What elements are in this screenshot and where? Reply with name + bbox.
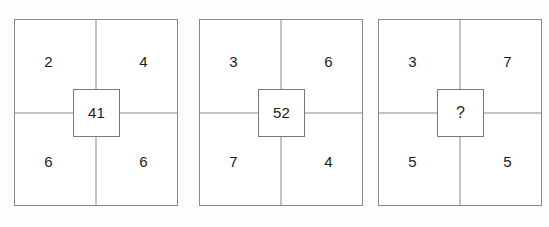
puzzle-panel-1: 2 4 6 6 41 bbox=[14, 19, 178, 206]
panel-1-center-value: 41 bbox=[73, 89, 120, 137]
panel-2-center-value: 52 bbox=[258, 89, 305, 137]
panel-3-center-unknown-value: ? bbox=[437, 89, 484, 137]
puzzle-panel-2: 3 6 7 4 52 bbox=[199, 19, 363, 206]
puzzle-figure: 2 4 6 6 41 3 6 7 4 52 3 7 5 5 ? bbox=[0, 0, 549, 227]
puzzle-panel-3: 3 7 5 5 ? bbox=[378, 19, 542, 206]
